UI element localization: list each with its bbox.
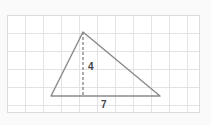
triangle-shape	[51, 32, 160, 96]
geometry-figure: 4 7	[0, 0, 211, 125]
base-label: 7	[101, 100, 107, 110]
height-label: 4	[88, 62, 94, 72]
